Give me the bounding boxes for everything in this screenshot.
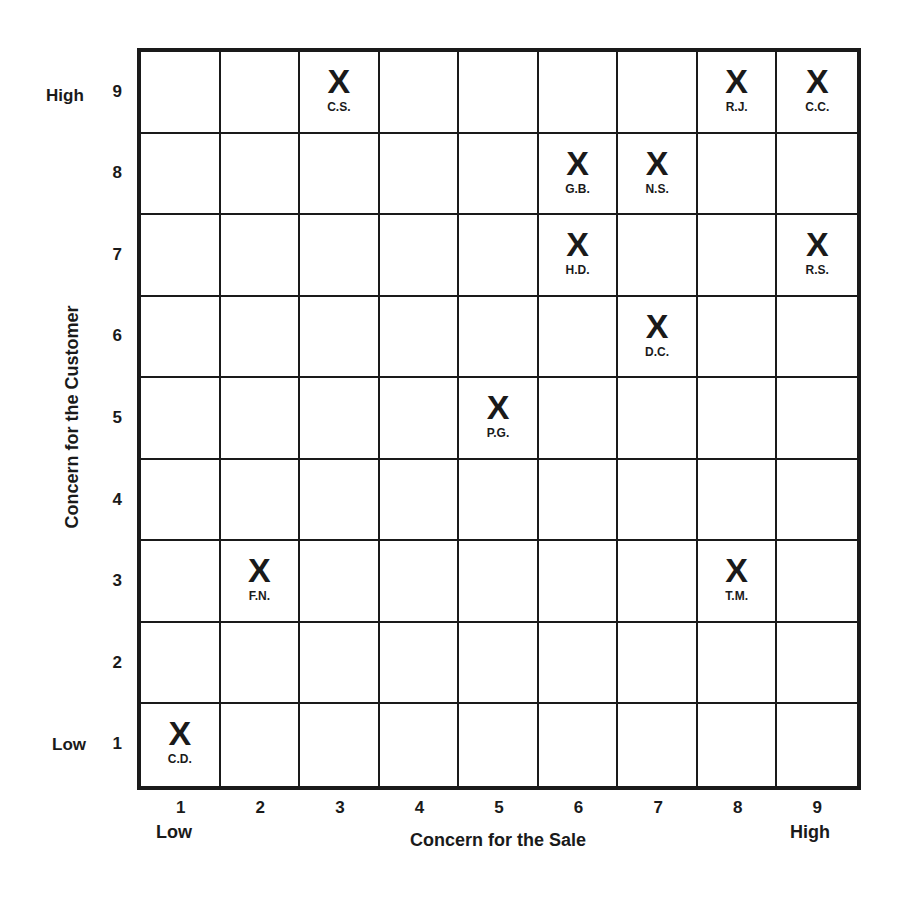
grid-cell: XC.S. [300, 52, 380, 134]
grid-cell [698, 623, 778, 705]
x-marker-icon: X [221, 553, 299, 587]
grid-cell [539, 541, 619, 623]
grid-cell [221, 704, 301, 786]
grid-cell [618, 460, 698, 542]
grid-cell [221, 297, 301, 379]
x-tick-label: 8 [718, 798, 758, 818]
grid-cell: XC.D. [141, 704, 221, 786]
grid-cell [221, 378, 301, 460]
x-tick-label: 6 [559, 798, 599, 818]
y-axis-title: Concern for the Customer [62, 305, 83, 528]
grid-cell: XC.C. [777, 52, 857, 134]
x-marker-icon: X [459, 390, 537, 424]
grid-cell [380, 704, 460, 786]
grid-cell [141, 52, 221, 134]
grid-cell [141, 623, 221, 705]
grid-cell [221, 623, 301, 705]
grid-cell [777, 297, 857, 379]
x-marker-icon: X [777, 64, 857, 98]
x-marker-icon: X [618, 309, 696, 343]
grid-cell [777, 378, 857, 460]
grid-cell [539, 460, 619, 542]
data-point: XT.M. [698, 553, 776, 603]
point-label: N.S. [618, 182, 696, 196]
grid-cell [141, 541, 221, 623]
y-tick-label: 5 [82, 408, 122, 428]
x-tick-label: 7 [638, 798, 678, 818]
grid-cell [698, 704, 778, 786]
data-point: XC.S. [300, 64, 378, 114]
grid-cell [141, 134, 221, 216]
grid-cell [300, 704, 380, 786]
grid-cell [300, 297, 380, 379]
grid-cell [221, 460, 301, 542]
data-point: XG.B. [539, 146, 617, 196]
point-label: R.S. [777, 263, 857, 277]
grid-cell [777, 460, 857, 542]
x-marker-icon: X [300, 64, 378, 98]
x-tick-label: 4 [399, 798, 439, 818]
grid-cell [221, 52, 301, 134]
grid-cell: XR.S. [777, 215, 857, 297]
data-point: XH.D. [539, 227, 617, 277]
grid-cell [539, 704, 619, 786]
grid-cell [300, 460, 380, 542]
grid-cell [539, 623, 619, 705]
point-label: P.G. [459, 426, 537, 440]
grid-cell [618, 215, 698, 297]
grid-cell [141, 297, 221, 379]
point-label: T.M. [698, 589, 776, 603]
x-tick-label: 9 [797, 798, 837, 818]
point-label: H.D. [539, 263, 617, 277]
grid-cell [618, 704, 698, 786]
grid-cell: XR.J. [698, 52, 778, 134]
grid-cell [300, 541, 380, 623]
data-point: XN.S. [618, 146, 696, 196]
grid-cell [459, 134, 539, 216]
data-point: XR.S. [777, 227, 857, 277]
grid-cell [539, 297, 619, 379]
grid-cell [539, 378, 619, 460]
x-marker-icon: X [777, 227, 857, 261]
data-point: XC.C. [777, 64, 857, 114]
grid-cell [777, 134, 857, 216]
grid-cell: XT.M. [698, 541, 778, 623]
point-label: C.S. [300, 100, 378, 114]
grid-cell [777, 704, 857, 786]
x-marker-icon: X [618, 146, 696, 180]
y-tick-label: 2 [82, 653, 122, 673]
grid-cell: XD.C. [618, 297, 698, 379]
grid-cell: XF.N. [221, 541, 301, 623]
grid-chart: XC.S.XR.J.XC.C.XG.B.XN.S.XH.D.XR.S.XD.C.… [137, 48, 861, 790]
y-low-label: Low [52, 735, 86, 755]
grid-cell: XP.G. [459, 378, 539, 460]
grid-cell [300, 623, 380, 705]
data-point: XR.J. [698, 64, 776, 114]
x-marker-icon: X [539, 227, 617, 261]
point-label: D.C. [618, 345, 696, 359]
data-point: XC.D. [141, 716, 219, 766]
grid-cell [698, 215, 778, 297]
grid-cell [698, 134, 778, 216]
grid-cell [698, 378, 778, 460]
grid-cell [380, 541, 460, 623]
grid-cell [380, 215, 460, 297]
y-tick-label: 3 [82, 571, 122, 591]
grid-cell [141, 378, 221, 460]
x-tick-label: 2 [240, 798, 280, 818]
x-marker-icon: X [141, 716, 219, 750]
data-point: XD.C. [618, 309, 696, 359]
point-label: R.J. [698, 100, 776, 114]
grid-cell [141, 460, 221, 542]
grid-cell [618, 52, 698, 134]
x-marker-icon: X [539, 146, 617, 180]
grid-cell [777, 623, 857, 705]
grid-cell [459, 623, 539, 705]
point-label: F.N. [221, 589, 299, 603]
grid-cell [459, 541, 539, 623]
grid-cell [300, 215, 380, 297]
grid-cell [459, 52, 539, 134]
grid-cell [141, 215, 221, 297]
data-point: XP.G. [459, 390, 537, 440]
x-marker-icon: X [698, 553, 776, 587]
